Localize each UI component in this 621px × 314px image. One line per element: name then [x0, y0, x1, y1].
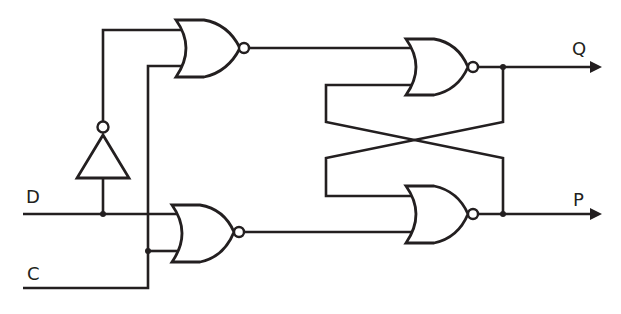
p-arrow-icon: [590, 208, 602, 220]
label-p: P: [573, 189, 584, 210]
label-c: C: [27, 263, 40, 284]
junction-dot-q: [500, 64, 506, 70]
junction-dot-c-bottom: [145, 248, 151, 254]
nor-gate-bottom-left: [172, 205, 244, 262]
nor-gate-bottom-right: [406, 186, 478, 243]
label-q: Q: [572, 38, 586, 59]
inverter-bubble: [98, 122, 109, 133]
junction-dot-p: [500, 211, 506, 217]
nor-gate-top-right: [406, 39, 478, 95]
junction-dot-d-inverter: [100, 211, 106, 217]
wire-inverter-to-top-nor: [103, 30, 184, 121]
q-arrow-icon: [590, 61, 602, 73]
inverter-triangle: [77, 135, 129, 178]
label-d: D: [26, 186, 40, 207]
nor-gate-top-left: [176, 20, 249, 77]
circuit-diagram: D C Q P: [0, 0, 621, 314]
